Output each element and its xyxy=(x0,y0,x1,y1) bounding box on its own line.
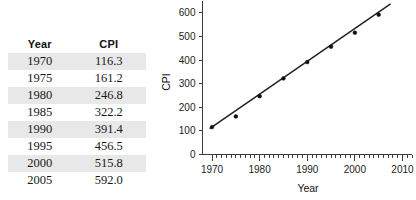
y-tick-label: 400 xyxy=(179,55,196,66)
cell-cpi: 515.8 xyxy=(71,155,146,172)
y-tick-label: 600 xyxy=(179,7,196,18)
table-row: 2005592.0 xyxy=(8,172,146,189)
cell-year: 1980 xyxy=(8,87,71,104)
cell-year: 1985 xyxy=(8,104,71,121)
cell-cpi: 246.8 xyxy=(71,87,146,104)
y-tick-label: 500 xyxy=(179,31,196,42)
y-axis-title: CPI xyxy=(160,73,172,91)
cell-cpi: 391.4 xyxy=(71,121,146,138)
x-axis-title: Year xyxy=(297,182,319,194)
data-points xyxy=(210,13,380,129)
table-row: 1995456.5 xyxy=(8,138,146,155)
y-tick-label: 200 xyxy=(179,102,196,113)
y-tick-label: 100 xyxy=(179,125,196,136)
cell-year: 1995 xyxy=(8,138,71,155)
data-point xyxy=(210,125,214,129)
y-tick-label: 0 xyxy=(190,149,196,160)
table: Year CPI 1970116.31975161.21980246.81985… xyxy=(8,36,146,189)
cell-cpi: 322.2 xyxy=(71,104,146,121)
cell-year: 1975 xyxy=(8,70,71,87)
cell-year: 2005 xyxy=(8,172,71,189)
table-header-row: Year CPI xyxy=(8,36,146,53)
table-row: 2000515.8 xyxy=(8,155,146,172)
cpi-data-table: Year CPI 1970116.31975161.21980246.81985… xyxy=(8,36,146,189)
x-axis-minor-ticks xyxy=(212,155,412,161)
x-tick-label: 1980 xyxy=(249,164,272,175)
cell-year: 1970 xyxy=(8,53,71,70)
data-point xyxy=(353,31,357,35)
column-header-cpi: CPI xyxy=(71,36,146,53)
data-point xyxy=(282,77,286,81)
cell-year: 1990 xyxy=(8,121,71,138)
x-tick-label: 2000 xyxy=(344,164,367,175)
x-tick-label: 1990 xyxy=(296,164,319,175)
table-row: 1975161.2 xyxy=(8,70,146,87)
y-axis-ticks xyxy=(199,13,203,155)
cell-cpi: 456.5 xyxy=(71,138,146,155)
cell-cpi: 161.2 xyxy=(71,70,146,87)
x-tick-label: 2010 xyxy=(391,164,414,175)
data-point xyxy=(329,45,333,49)
y-axis-tick-labels: 0100200300400500600 xyxy=(179,7,196,160)
data-point xyxy=(258,94,262,98)
regression-line xyxy=(210,4,391,129)
y-tick-label: 300 xyxy=(179,78,196,89)
x-axis-tick-labels: 19701980199020002010 xyxy=(201,164,414,175)
table-row: 1980246.8 xyxy=(8,87,146,104)
table-row: 1985322.2 xyxy=(8,104,146,121)
x-tick-label: 1970 xyxy=(201,164,224,175)
data-point xyxy=(305,60,309,64)
cell-cpi: 116.3 xyxy=(71,53,146,70)
column-header-year: Year xyxy=(8,36,71,53)
cpi-scatter-chart: 0100200300400500600 19701980199020002010… xyxy=(160,0,416,200)
table-row: 1990391.4 xyxy=(8,121,146,138)
data-point xyxy=(234,115,238,119)
cell-cpi: 592.0 xyxy=(71,172,146,189)
table-row: 1970116.3 xyxy=(8,53,146,70)
cell-year: 2000 xyxy=(8,155,71,172)
data-point xyxy=(377,13,381,17)
